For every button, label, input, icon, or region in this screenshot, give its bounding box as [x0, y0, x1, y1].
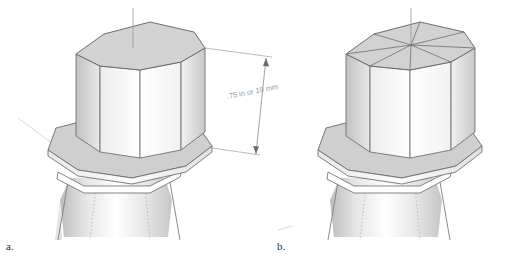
figure-sheet: .75 in or 19 mm a. b. — [0, 0, 521, 265]
panel-b — [278, 8, 482, 240]
technical-illustration — [0, 0, 521, 265]
panel-a — [18, 8, 272, 240]
dimension-arrow-bottom — [253, 146, 259, 154]
dimension-annotation — [205, 48, 272, 155]
octagonal-tenon-a — [76, 8, 205, 158]
leader-line-b — [278, 226, 292, 230]
leader-line-a — [18, 118, 56, 146]
dimension-extension-bottom — [212, 148, 260, 155]
caption-b: b. — [277, 240, 286, 252]
dimension-arrow-top — [263, 58, 269, 67]
octagonal-tenon-b — [346, 8, 475, 158]
dimension-line — [256, 58, 266, 154]
dimension-extension-top — [205, 48, 272, 57]
caption-a: a. — [6, 240, 14, 252]
